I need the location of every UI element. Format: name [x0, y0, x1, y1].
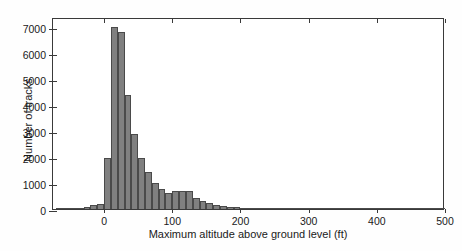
- histogram-bar: [425, 208, 432, 209]
- histogram-bar: [397, 208, 404, 209]
- histogram-bar: [261, 208, 268, 209]
- y-tick-mark-inner: [53, 55, 57, 56]
- histogram-bar: [165, 193, 172, 209]
- histogram-bar: [363, 208, 370, 209]
- histogram-bar: [172, 191, 179, 209]
- x-tick-mark-inner: [377, 19, 378, 23]
- histogram-bar: [302, 208, 309, 209]
- histogram-bar: [343, 208, 350, 209]
- histogram-bar: [384, 208, 391, 209]
- histogram-bar: [97, 204, 104, 209]
- histogram-bar: [438, 208, 445, 209]
- x-tick-label: 400: [368, 215, 386, 227]
- histogram-bar: [227, 207, 234, 209]
- histogram-bar: [118, 32, 125, 209]
- histogram-bar: [234, 207, 241, 209]
- histogram-bar: [309, 208, 316, 209]
- x-tick-mark: [240, 209, 241, 213]
- x-tick-label: 0: [101, 215, 107, 227]
- histogram-bar: [322, 208, 329, 209]
- histogram-bar: [56, 208, 63, 209]
- histogram-bar: [240, 208, 247, 209]
- histogram-bar: [336, 208, 343, 209]
- histogram-bar: [418, 208, 425, 209]
- y-tick-mark-inner: [53, 159, 57, 160]
- x-tick-mark-inner: [309, 19, 310, 23]
- histogram-bar: [390, 208, 397, 209]
- x-tick-mark: [377, 209, 378, 213]
- histogram-bar: [77, 208, 84, 209]
- histogram-bar: [111, 27, 118, 209]
- histogram-bar: [404, 208, 411, 209]
- histogram-bar: [159, 189, 166, 209]
- y-tick-label: 7000: [23, 23, 46, 35]
- histogram-bar: [70, 208, 77, 209]
- y-tick-mark-inner: [53, 185, 57, 186]
- x-axis-title: Maximum altitude above ground level (ft): [52, 228, 444, 240]
- histogram-bar: [206, 203, 213, 209]
- y-tick-mark-inner: [53, 211, 57, 212]
- histogram-bar: [431, 208, 438, 209]
- histogram-bar: [329, 208, 336, 209]
- histogram-bar: [193, 198, 200, 209]
- x-tick-mark: [445, 209, 446, 213]
- x-tick-mark-inner: [104, 19, 105, 23]
- histogram-bar: [356, 208, 363, 209]
- histogram-bar: [138, 158, 145, 209]
- histogram-bar: [145, 172, 152, 209]
- histogram-bar: [125, 95, 132, 209]
- histogram-bar: [90, 205, 97, 209]
- histogram-bar: [275, 208, 282, 209]
- x-tick-label: 300: [300, 215, 318, 227]
- histogram-figure: 01000200030004000500060007000 0100200300…: [0, 0, 462, 251]
- histogram-bar: [350, 208, 357, 209]
- histogram-bar: [254, 208, 261, 209]
- histogram-bar: [152, 183, 159, 209]
- histogram-bar: [131, 134, 138, 209]
- histogram-bar: [268, 208, 275, 209]
- x-tick-mark-inner: [240, 19, 241, 23]
- histogram-bar: [247, 208, 254, 209]
- x-tick-label: 500: [436, 215, 454, 227]
- histogram-bar: [281, 208, 288, 209]
- y-tick-mark-inner: [53, 81, 57, 82]
- histogram-bar: [104, 158, 111, 209]
- histogram-bar: [84, 207, 91, 209]
- y-tick-mark-inner: [53, 133, 57, 134]
- x-tick-mark: [104, 209, 105, 213]
- histogram-bar: [213, 205, 220, 209]
- histogram-bar: [186, 191, 193, 209]
- histogram-bar: [315, 208, 322, 209]
- histogram-bar: [200, 201, 207, 209]
- histogram-bar: [370, 208, 377, 209]
- x-tick-mark-inner: [445, 19, 446, 23]
- histogram-bar: [411, 208, 418, 209]
- y-tick-mark-inner: [53, 29, 57, 30]
- y-tick-label: 0: [40, 205, 46, 217]
- x-tick-mark: [309, 209, 310, 213]
- histogram-bars: [53, 19, 443, 209]
- x-tick-label: 200: [232, 215, 250, 227]
- y-axis-title: Number of tracks: [22, 45, 34, 195]
- histogram-bar: [179, 191, 186, 209]
- histogram-bar: [220, 206, 227, 209]
- x-tick-mark: [172, 209, 173, 213]
- histogram-bar: [295, 208, 302, 209]
- histogram-bar: [63, 208, 70, 209]
- histogram-bar: [377, 208, 384, 209]
- y-tick-mark-inner: [53, 107, 57, 108]
- histogram-bar: [288, 208, 295, 209]
- plot-area: 01000200030004000500060007000 0100200300…: [52, 18, 444, 210]
- x-tick-label: 100: [164, 215, 182, 227]
- x-tick-mark-inner: [172, 19, 173, 23]
